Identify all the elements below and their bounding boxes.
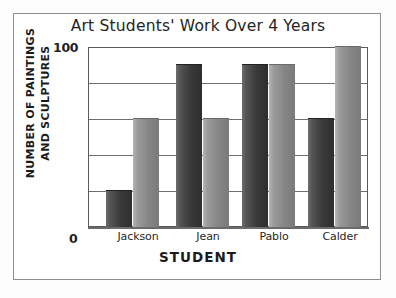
bar-jackson-dark[interactable]	[106, 190, 132, 227]
bar-group-pablo	[242, 47, 306, 227]
y-axis-tick-min: 0	[69, 231, 77, 246]
bar-jean-dark[interactable]	[176, 64, 202, 227]
axis-baseline	[88, 227, 369, 229]
bar-pablo-dark[interactable]	[242, 64, 268, 227]
y-axis-label: NUMBER OF PAINTINGS AND SCULPTURES	[23, 8, 63, 198]
x-axis-tick-row: Jackson Jean Pablo Calder	[88, 230, 368, 246]
y-axis-label-line-1: NUMBER OF PAINTINGS	[23, 8, 38, 198]
bar-calder-dark[interactable]	[308, 118, 334, 227]
bar-calder-light[interactable]	[335, 46, 361, 227]
bar-jackson-light[interactable]	[133, 118, 159, 227]
bar-group-calder	[308, 47, 372, 227]
scanned-page: Art Students' Work Over 4 Years 100 0	[0, 0, 396, 298]
x-axis-tick-calder: Calder	[300, 230, 380, 243]
x-axis-tick-jackson: Jackson	[98, 230, 178, 243]
x-axis-label: STUDENT	[0, 249, 396, 265]
bars-layer	[88, 47, 368, 227]
bar-group-jackson	[106, 47, 170, 227]
bar-jean-light[interactable]	[203, 118, 229, 227]
bar-pablo-light[interactable]	[269, 64, 295, 227]
y-axis-label-line-2: AND SCULPTURES	[38, 8, 53, 198]
bar-group-jean	[176, 47, 240, 227]
